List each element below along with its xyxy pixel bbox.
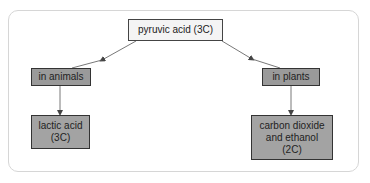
pyruvic-acid-label: pyruvic acid (3C) xyxy=(138,24,213,36)
in-plants-node: in plants xyxy=(262,68,320,86)
lactic-acid-label: lactic acid (3C) xyxy=(39,120,83,144)
in-plants-label: in plants xyxy=(272,71,309,83)
lactic-acid-node: lactic acid (3C) xyxy=(31,115,90,149)
in-animals-label: in animals xyxy=(38,71,83,83)
carbon-dioxide-ethanol-node: carbon dioxide and ethanol (2C) xyxy=(251,115,333,160)
pyruvic-acid-node: pyruvic acid (3C) xyxy=(128,19,223,41)
carbon-dioxide-ethanol-label: carbon dioxide and ethanol (2C) xyxy=(259,120,324,156)
in-animals-node: in animals xyxy=(31,68,91,86)
